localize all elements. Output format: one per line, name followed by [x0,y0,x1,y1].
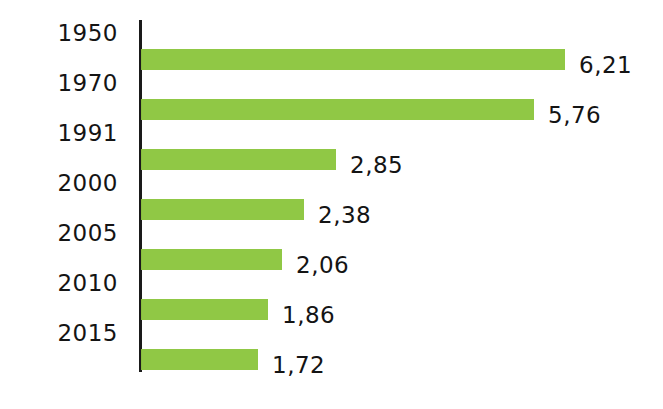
category-label-2005: 2005 [0,221,118,245]
bar-row: 20052,06 [0,221,663,271]
bar-chart: 19506,2119705,7619912,8520002,3820052,06… [0,0,663,409]
bar-2010 [141,299,268,320]
category-label-2000: 2000 [0,171,118,195]
bar-track [141,249,282,270]
bar-2000 [141,199,304,220]
bar-row: 20151,72 [0,321,663,371]
bar-1970 [141,99,534,120]
bar-1991 [141,149,336,170]
bar-track [141,199,304,220]
category-label-1970: 1970 [0,71,118,95]
bar-track [141,149,336,170]
value-label-2015: 1,72 [272,351,325,379]
bar-2005 [141,249,282,270]
bar-track [141,299,268,320]
bar-row: 20101,86 [0,271,663,321]
bar-2015 [141,349,258,370]
bar-1950 [141,49,565,70]
bar-row: 20002,38 [0,171,663,221]
category-label-1991: 1991 [0,121,118,145]
bar-row: 19705,76 [0,71,663,121]
bar-row: 19506,21 [0,21,663,71]
category-label-2010: 2010 [0,271,118,295]
category-label-2015: 2015 [0,321,118,345]
bar-track [141,49,565,70]
bar-row: 19912,85 [0,121,663,171]
category-label-1950: 1950 [0,21,118,45]
plot-area: 19506,2119705,7619912,8520002,3820052,06… [0,0,663,409]
bar-track [141,99,534,120]
bar-track [141,349,258,370]
